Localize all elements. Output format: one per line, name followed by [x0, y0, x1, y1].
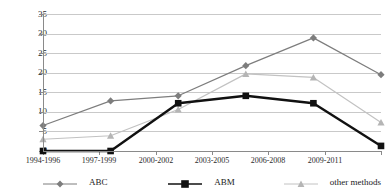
- plot-area: [43, 14, 381, 151]
- legend-label-other-methods: other methods: [330, 177, 381, 187]
- y-axis-line: [43, 14, 44, 151]
- x-axis-label: 2003-2005: [184, 156, 240, 165]
- legend-item-abm[interactable]: ABM: [168, 174, 283, 190]
- chart-legend: ABC ABM other methods: [43, 174, 381, 190]
- square-marker-icon: [168, 176, 202, 188]
- x-axis-line: [43, 151, 381, 152]
- series-abm: [40, 93, 385, 155]
- x-axis-label: 2006-2008: [240, 156, 296, 165]
- triangle-marker-icon: [284, 176, 318, 188]
- legend-item-abc[interactable]: ABC: [43, 174, 168, 190]
- x-axis-label: 1997-1999: [71, 156, 127, 165]
- series-layer: [43, 14, 381, 151]
- x-axis-label: 2009-2011: [297, 156, 353, 165]
- legend-label-abm: ABM: [214, 177, 235, 187]
- legend-item-other-methods[interactable]: other methods: [284, 174, 381, 190]
- legend-label-abc: ABC: [89, 177, 108, 187]
- x-tick: [381, 151, 382, 155]
- diamond-marker-icon: [43, 176, 77, 188]
- x-axis-label: 2000-2002: [128, 156, 184, 165]
- x-axis-label: 1994-1996: [15, 156, 71, 165]
- line-chart: 35 30 25 20 15 10 5 0: [0, 0, 391, 194]
